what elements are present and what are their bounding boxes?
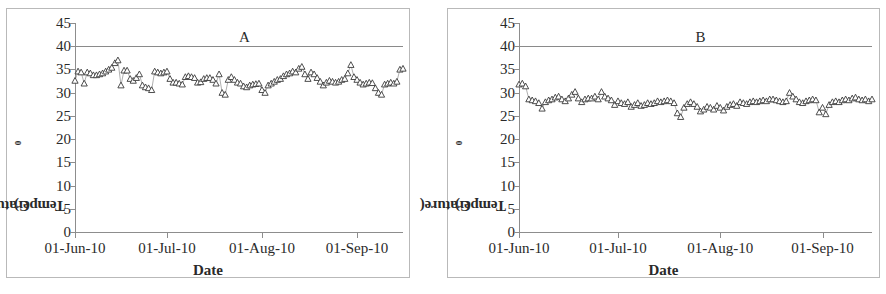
chart-panel-b: Temperature(0C) 051015202530354045 01-Ju… xyxy=(447,8,880,278)
data-point-marker xyxy=(72,77,78,83)
data-point-marker xyxy=(302,71,308,77)
temperature-series xyxy=(7,9,409,277)
x-tick-label: 01-Aug-10 xyxy=(687,241,753,256)
panel-b-plot-area xyxy=(448,9,879,277)
panel-b-x-axis-title: Date xyxy=(448,262,879,279)
data-point-marker xyxy=(348,62,354,68)
data-point-marker xyxy=(345,70,351,76)
x-tick-label: 01-Jun-10 xyxy=(489,241,550,256)
panel-a-x-axis-title: Date xyxy=(7,262,409,279)
data-point-marker xyxy=(572,89,578,95)
panel-b-inner: Temperature(0C) 051015202530354045 01-Ju… xyxy=(448,9,879,277)
x-tick-label: 01-Jul-10 xyxy=(138,241,196,256)
x-tick-label: 01-Jul-10 xyxy=(589,241,647,256)
data-point-marker xyxy=(115,57,121,63)
data-point-marker xyxy=(118,82,124,88)
x-tick-label: 01-Sep-10 xyxy=(791,241,854,256)
data-point-marker xyxy=(136,71,142,77)
panel-a-label: A xyxy=(239,29,250,46)
data-point-marker xyxy=(869,96,875,102)
x-tick-label: 01-Aug-10 xyxy=(229,241,295,256)
figure-root: Temperature(0C) 051015202530354045 01-Ju… xyxy=(0,0,886,294)
data-point-marker xyxy=(819,104,825,110)
temperature-series xyxy=(448,9,879,277)
data-point-marker xyxy=(539,105,545,111)
x-tick-label: 01-Sep-10 xyxy=(326,241,389,256)
data-point-marker xyxy=(823,111,829,117)
data-point-marker xyxy=(216,71,222,77)
panel-a-inner: Temperature(0C) 051015202530354045 01-Ju… xyxy=(7,9,409,277)
panel-a-plot-area xyxy=(7,9,409,277)
x-tick-label: 01-Jun-10 xyxy=(45,241,106,256)
data-point-marker xyxy=(598,89,604,95)
data-point-marker xyxy=(625,99,631,105)
data-point-marker xyxy=(81,80,87,86)
chart-panel-a: Temperature(0C) 051015202530354045 01-Ju… xyxy=(6,8,410,278)
panel-b-label: B xyxy=(696,29,706,46)
